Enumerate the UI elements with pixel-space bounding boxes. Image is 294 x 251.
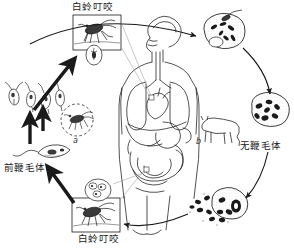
amastigote-inset-bottom — [85, 179, 111, 201]
arrow-amastigote-to-rupture — [246, 152, 268, 198]
sandfly-in-dashed-circle — [61, 104, 94, 136]
promastigote-single — [13, 145, 70, 158]
ruptured-macrophage-releasing-amastigotes — [189, 188, 247, 226]
leishmania-life-cycle-diagram: 白蛉叮咬 白蛉叮咬 前鞭毛体 无鞭毛体 a b — [0, 0, 294, 251]
arrow-macrophage-to-amastigote — [243, 48, 270, 94]
label-amastigote: 无鞭毛体 — [240, 141, 282, 151]
sandfly-proboscis-inset-top — [86, 45, 102, 65]
arrow-promastigote-to-sandfly-top — [34, 62, 72, 110]
sandfly-biting-illustration-bottom — [72, 198, 120, 232]
reservoir-host-animal — [201, 116, 240, 146]
leader-sandfly-top-to-body — [121, 22, 154, 100]
label-marker-b: b — [196, 138, 201, 146]
label-sandfly-bite-bottom: 白蛉叮咬 — [78, 234, 120, 244]
label-promastigote: 前鞭毛体 — [4, 163, 46, 173]
diagram-canvas — [0, 0, 294, 251]
arrow-rupture-to-sandfly-bottom — [124, 214, 188, 226]
arrow-sandfly-bottom-to-promastigote — [50, 170, 74, 203]
sandfly-biting-illustration-top — [73, 15, 121, 50]
label-marker-a: a — [73, 137, 78, 145]
macrophage-with-amastigotes — [204, 10, 245, 49]
label-sandfly-bite-top: 白蛉叮咬 — [72, 2, 114, 12]
leader-sandfly-bottom-to-body — [113, 167, 149, 200]
macrophage-amastigote-cell — [252, 92, 290, 126]
human-torso-anatomy — [119, 16, 199, 234]
